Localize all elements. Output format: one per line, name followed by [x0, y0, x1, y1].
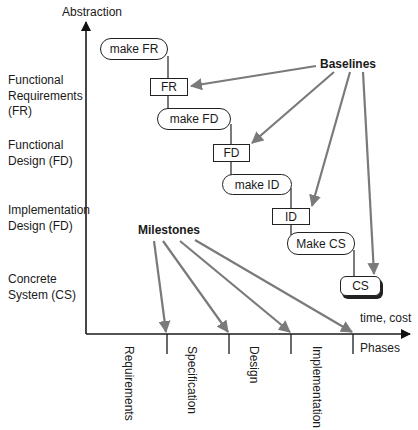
artifact-fr: FR: [150, 78, 188, 96]
milestones-annotation: Milestones: [138, 223, 200, 239]
x-axis-label-time-cost: time, cost: [360, 311, 411, 327]
artifact-cs: CS: [340, 276, 381, 296]
level-implementation-design: Implementation Design (FD): [8, 203, 90, 234]
level-concrete-system: Concrete System (CS): [8, 272, 76, 303]
x-axis-label-phases: Phases: [360, 341, 400, 357]
phase-design: Design: [247, 346, 261, 383]
activity-make-cs: Make CS: [287, 232, 355, 255]
phase-specification: Specification: [185, 346, 199, 414]
phase-implementation: Implementation: [310, 346, 324, 428]
activity-make-fr: make FR: [100, 38, 168, 60]
phase-abstraction-diagram: Abstraction time, cost Phases Functional…: [0, 0, 418, 430]
activity-make-fd: make FD: [157, 108, 231, 130]
level-functional-requirements: Functional Requirements (FR): [8, 73, 83, 120]
artifact-fd: FD: [213, 144, 250, 162]
phase-requirements: Requirements: [122, 346, 136, 421]
activity-make-id: make ID: [222, 174, 292, 195]
level-functional-design: Functional Design (FD): [8, 138, 73, 169]
baselines-annotation: Baselines: [320, 57, 376, 73]
artifact-id: ID: [272, 208, 310, 225]
y-axis-label: Abstraction: [62, 5, 122, 21]
